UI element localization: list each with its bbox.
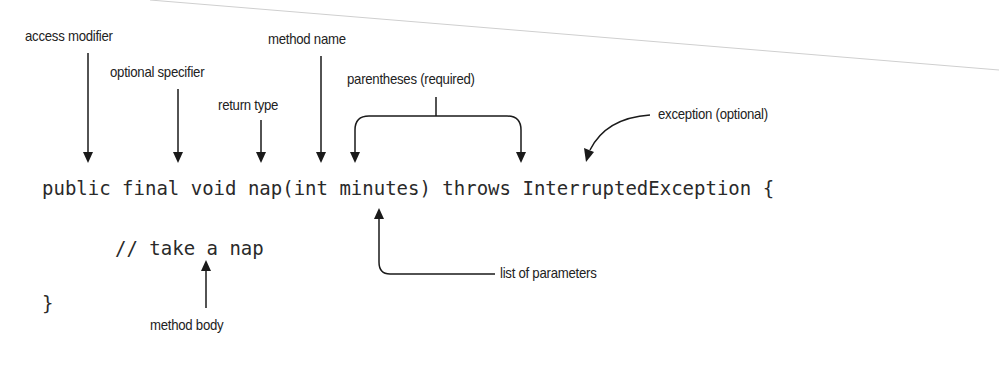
code-line-signature: public final void nap(int minutes) throw… xyxy=(42,177,774,199)
optional-specifier-label: optional specifier xyxy=(110,63,204,80)
exception-arrow xyxy=(584,115,650,162)
return-type-label: return type xyxy=(218,96,278,113)
method-name-label: method name xyxy=(268,30,346,47)
method-body-label: method body xyxy=(150,316,223,333)
method-name-arrow xyxy=(316,56,326,163)
parentheses-label: parentheses (required) xyxy=(347,70,475,87)
parentheses-bracket xyxy=(350,97,526,163)
return-type-arrow xyxy=(256,120,266,163)
access-modifier-arrow xyxy=(83,53,93,163)
exception-label: exception (optional) xyxy=(658,105,768,122)
parameters-label: list of parameters xyxy=(500,264,596,281)
method-body-arrow xyxy=(201,260,211,308)
optional-specifier-arrow xyxy=(173,89,183,163)
parameters-arrow xyxy=(374,208,495,274)
code-line-comment: // take a nap xyxy=(115,237,264,259)
code-line-closing-brace: } xyxy=(42,292,53,314)
access-modifier-label: access modifier xyxy=(25,27,113,44)
